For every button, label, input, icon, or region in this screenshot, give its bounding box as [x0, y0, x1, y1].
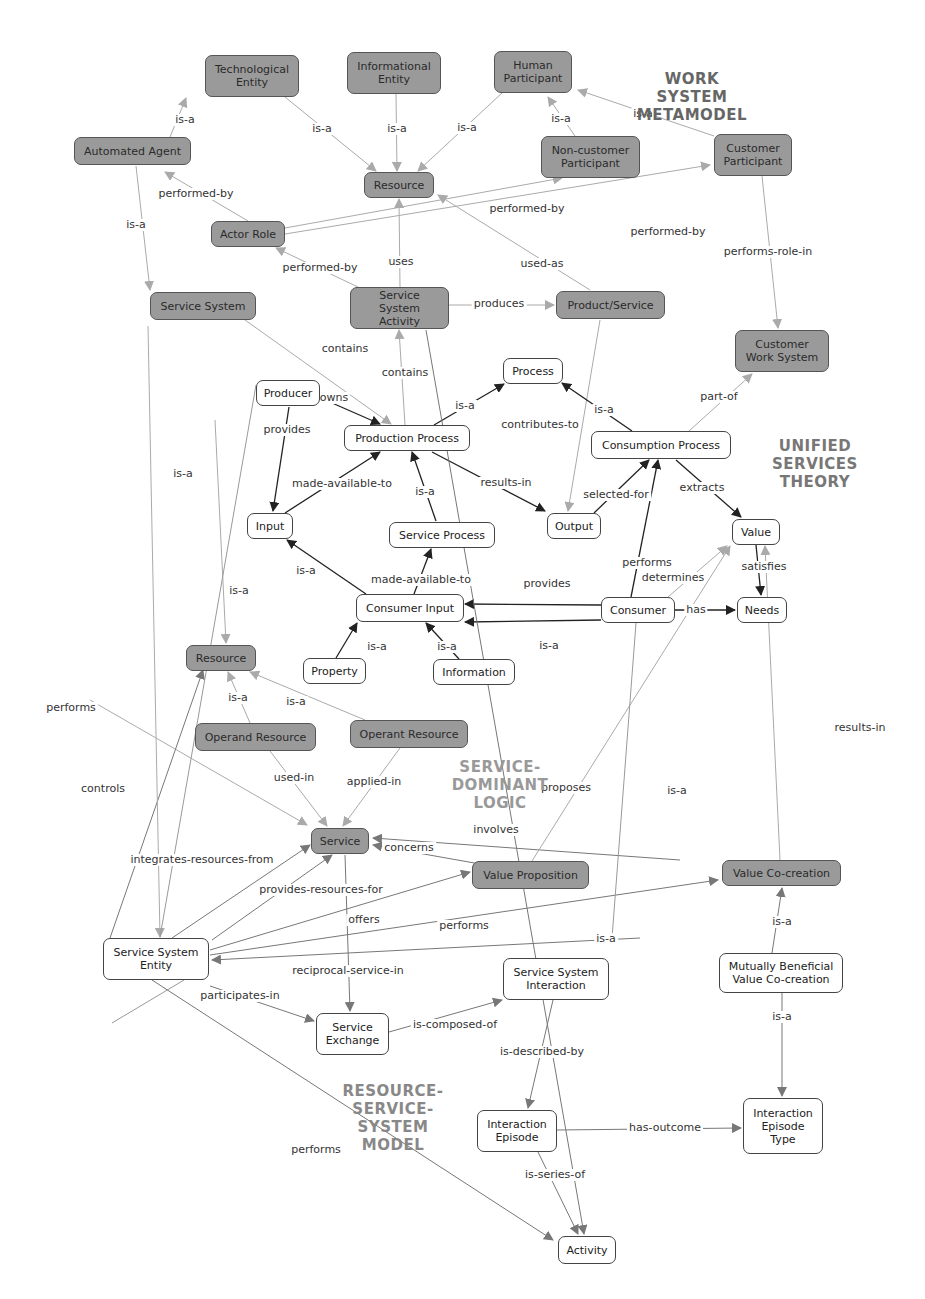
- edge-performed-by: [285, 165, 710, 234]
- edge-label: performs: [620, 557, 674, 569]
- edge-label: is-a: [171, 468, 195, 480]
- edge-label: performs: [44, 702, 98, 714]
- concept-node-svcproc[interactable]: Service Process: [389, 522, 495, 548]
- edge-label: concerns: [382, 842, 436, 854]
- edge-label: performed-by: [487, 203, 566, 215]
- edge-provides: [465, 604, 601, 605]
- concept-node-process[interactable]: Process: [503, 358, 563, 384]
- edge-label: controls: [79, 783, 127, 795]
- edge-label: has: [684, 604, 707, 616]
- edge-is-a: [212, 938, 640, 960]
- edge-label: is-a: [365, 641, 389, 653]
- edge-label: performs-role-in: [722, 246, 814, 258]
- edge-label: determines: [640, 572, 706, 584]
- concept-node-ssi[interactable]: Service System Interaction: [503, 958, 609, 1000]
- concept-node-activity[interactable]: Activity: [558, 1236, 616, 1264]
- edge-label: performs: [437, 920, 491, 932]
- concept-node-producer[interactable]: Producer: [256, 380, 320, 406]
- concept-node-info_ent[interactable]: Informational Entity: [347, 52, 441, 94]
- edge-label: provides: [261, 424, 312, 436]
- concept-node-needs[interactable]: Needs: [737, 597, 787, 623]
- edge-reciprocal-service-in: [345, 855, 350, 1011]
- concept-node-prodproc[interactable]: Production Process: [344, 425, 470, 451]
- edge-label: is-a: [413, 486, 437, 498]
- edge-results-in: [765, 546, 780, 860]
- edge-label: is-a: [284, 696, 308, 708]
- concept-node-consumer[interactable]: Consumer: [601, 597, 675, 623]
- edge-label: is-a: [294, 565, 318, 577]
- edge-label: performs: [289, 1144, 343, 1156]
- concept-node-svcexch[interactable]: Service Exchange: [316, 1013, 389, 1055]
- edge-label: is-a: [770, 916, 794, 928]
- edge-used-in: [270, 751, 327, 826]
- edge-label: involves: [471, 824, 520, 836]
- edge-is-a: [336, 623, 357, 658]
- concept-node-custws[interactable]: Customer Work System: [735, 330, 829, 372]
- concept-node-res_mid[interactable]: Resource: [186, 645, 256, 671]
- concept-node-ssa[interactable]: Service System Activity: [350, 287, 449, 329]
- concept-node-operand[interactable]: Operand Resource: [195, 723, 316, 751]
- concept-node-auto[interactable]: Automated Agent: [74, 137, 191, 165]
- edge-label: applied-in: [345, 776, 404, 788]
- edge-label: is-a: [385, 123, 409, 135]
- edge-label: uses: [386, 256, 415, 268]
- concept-node-consproc[interactable]: Consumption Process: [591, 431, 731, 459]
- edge-label: is-described-by: [498, 1046, 586, 1058]
- edge-label: integrates-resources-from: [128, 854, 275, 866]
- edge-label: is-a: [549, 113, 573, 125]
- edge-label: selected-for: [581, 489, 651, 501]
- edge-performs: [90, 700, 307, 825]
- concept-node-information[interactable]: Information: [433, 659, 515, 685]
- concept-node-output[interactable]: Output: [547, 513, 601, 539]
- concept-node-custpart[interactable]: Customer Participant: [714, 134, 792, 176]
- edge-connector: [612, 623, 636, 938]
- edge-label: offers: [346, 914, 381, 926]
- section-title-ust: UNIFIED SERVICES THEORY: [755, 437, 875, 491]
- edge-label: is-a: [537, 640, 561, 652]
- concept-node-actor[interactable]: Actor Role: [211, 221, 285, 247]
- edge-label: is-a: [455, 122, 479, 134]
- concept-node-property[interactable]: Property: [303, 658, 366, 684]
- concept-node-sse[interactable]: Service System Entity: [103, 938, 209, 980]
- concept-node-input[interactable]: Input: [247, 513, 293, 539]
- edge-label: is-a: [226, 692, 250, 704]
- concept-node-prodsvc[interactable]: Product/Service: [556, 291, 665, 319]
- edge-controls: [110, 670, 203, 938]
- edge-label: is-a: [435, 641, 459, 653]
- concept-node-valcoc[interactable]: Value Co-creation: [722, 860, 841, 886]
- concept-node-noncust[interactable]: Non-customer Participant: [541, 136, 640, 178]
- concept-node-human[interactable]: Human Participant: [494, 51, 572, 93]
- concept-node-value[interactable]: Value: [732, 519, 780, 545]
- concept-map-canvas: is-ais-ais-ais-ais-ais-aperformed-byperf…: [0, 0, 925, 1299]
- edge-label: produces: [472, 298, 527, 310]
- concept-node-valprop[interactable]: Value Proposition: [472, 861, 589, 889]
- edge-label: made-available-to: [369, 574, 473, 586]
- edge-label: satisfies: [740, 561, 789, 573]
- edge-label: is-a: [594, 933, 618, 945]
- edge-label: performed-by: [156, 188, 235, 200]
- edge-contains: [245, 320, 391, 424]
- edge-label: performed-by: [628, 226, 707, 238]
- concept-node-intep[interactable]: Interaction Episode: [477, 1110, 557, 1152]
- concept-node-service[interactable]: Service: [311, 828, 369, 854]
- section-title-sdl: SERVICE- DOMINANT LOGIC: [440, 758, 560, 812]
- edge-provides-resources-for: [212, 855, 332, 940]
- edge-label: has-outcome: [627, 1122, 703, 1134]
- section-title-rssm: RESOURCE- SERVICE- SYSTEM MODEL: [338, 1082, 448, 1154]
- edge-label: is-a: [310, 123, 334, 135]
- edge-label: is-a: [227, 585, 251, 597]
- edge-uses: [399, 199, 400, 287]
- edge-label: contains: [320, 343, 371, 355]
- edge-label: provides: [521, 578, 572, 590]
- edge-label: provides-resources-for: [257, 884, 384, 896]
- concept-node-svcsys[interactable]: Service System: [150, 292, 256, 320]
- edge-connector: [112, 980, 184, 1023]
- concept-node-tech[interactable]: Technological Entity: [205, 55, 299, 97]
- edge-label: owns: [318, 392, 350, 404]
- concept-node-operant[interactable]: Operant Resource: [350, 720, 468, 748]
- concept-node-consinput[interactable]: Consumer Input: [356, 594, 464, 622]
- concept-node-intept[interactable]: Interaction Episode Type: [743, 1098, 823, 1154]
- concept-node-mbvc[interactable]: Mutually Beneficial Value Co-creation: [719, 953, 843, 993]
- edge-label: is-composed-of: [411, 1019, 499, 1031]
- concept-node-res_top[interactable]: Resource: [364, 172, 434, 198]
